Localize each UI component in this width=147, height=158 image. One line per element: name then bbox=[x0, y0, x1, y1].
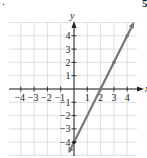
x-tick-label: −4 bbox=[14, 92, 25, 103]
x-axis-label: x bbox=[144, 83, 147, 94]
coordinate-plane: xy−4−3−2−11234−4−3−2−11234 bbox=[0, 0, 147, 158]
y-tick-label: −1 bbox=[60, 97, 71, 108]
line-series bbox=[68, 22, 134, 153]
x-tick-label: −2 bbox=[41, 92, 52, 103]
x-tick-label: 1 bbox=[85, 92, 90, 103]
y-tick-label: −4 bbox=[60, 137, 71, 148]
y-axis-label: y bbox=[69, 10, 75, 21]
y-tick-label: 3 bbox=[66, 44, 71, 55]
y-axis-arrow-icon bbox=[72, 21, 77, 28]
data-point bbox=[112, 61, 116, 65]
x-axis-arrow-icon bbox=[137, 87, 144, 92]
y-tick-label: 4 bbox=[66, 30, 71, 41]
x-tick-label: 3 bbox=[111, 92, 116, 103]
data-point bbox=[125, 34, 129, 38]
y-tick-label: −3 bbox=[60, 123, 71, 134]
y-tick-label: −2 bbox=[60, 110, 71, 121]
x-tick-label: −3 bbox=[28, 92, 39, 103]
y-tick-label: 2 bbox=[66, 57, 71, 68]
data-point bbox=[99, 87, 103, 91]
y-tick-label: 1 bbox=[66, 70, 71, 81]
x-tick-label: 4 bbox=[125, 92, 130, 103]
data-point bbox=[72, 140, 76, 144]
